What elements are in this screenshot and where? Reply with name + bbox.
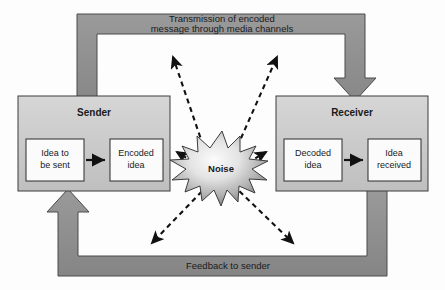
feedback-band-label: Feedback to sender xyxy=(186,260,270,271)
communication-model-diagram: Transmission of encoded message through … xyxy=(0,0,445,290)
sender-step-1-label-line2: be sent xyxy=(40,160,70,170)
noise-label: Noise xyxy=(208,163,234,174)
sender-box: Sender Idea to be sent Encoded idea xyxy=(18,96,170,191)
feedback-band: Feedback to sender xyxy=(47,188,387,276)
receiver-box: Receiver Decoded idea Idea received xyxy=(276,96,428,191)
noise-starburst: Noise xyxy=(170,131,268,206)
sender-title: Sender xyxy=(77,107,111,118)
sender-step-2-label-line1: Encoded xyxy=(118,148,154,158)
receiver-step-2-label-line2: received xyxy=(377,160,411,170)
diagram-canvas: Transmission of encoded message through … xyxy=(0,0,445,290)
receiver-step-2-label-line1: Idea xyxy=(385,148,403,158)
receiver-step-1-label-line1: Decoded xyxy=(295,148,331,158)
sender-step-2-label-line2: idea xyxy=(127,160,144,170)
receiver-title: Receiver xyxy=(331,107,373,118)
sender-step-1-label-line1: Idea to xyxy=(41,148,69,158)
noise-arrow-down-left xyxy=(152,185,208,243)
receiver-step-1-label-line2: idea xyxy=(304,160,321,170)
transmission-band-label-line2: message through media channels xyxy=(151,23,294,34)
noise-arrow-down-right xyxy=(233,185,293,243)
